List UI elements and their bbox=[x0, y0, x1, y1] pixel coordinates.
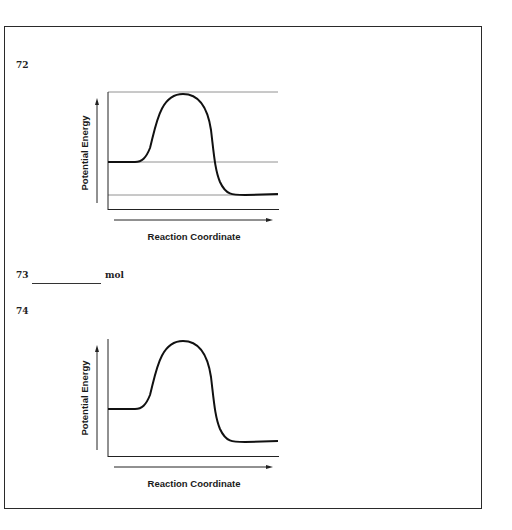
energy-diagram-72: Potential Energy Reaction Coordinate bbox=[79, 92, 279, 242]
energy-curve bbox=[108, 341, 278, 442]
arrow-up-icon bbox=[95, 345, 99, 352]
y-axis-label: Potential Energy bbox=[79, 115, 90, 191]
energy-diagram-74: Potential Energy Reaction Coordinate bbox=[79, 339, 279, 489]
energy-curve bbox=[108, 94, 278, 195]
arrow-up-icon bbox=[95, 98, 99, 105]
arrow-right-icon bbox=[266, 218, 273, 222]
x-axis-label: Reaction Coordinate bbox=[148, 478, 241, 489]
x-axis-label: Reaction Coordinate bbox=[148, 231, 241, 242]
y-axis-label: Potential Energy bbox=[79, 360, 90, 436]
arrow-right-icon bbox=[266, 465, 273, 469]
